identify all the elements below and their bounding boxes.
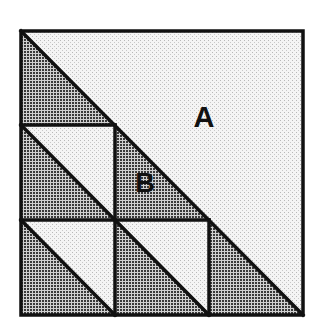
label-a: A — [194, 101, 215, 133]
label-b: B — [135, 168, 155, 198]
dissection-diagram: A B — [0, 0, 320, 334]
